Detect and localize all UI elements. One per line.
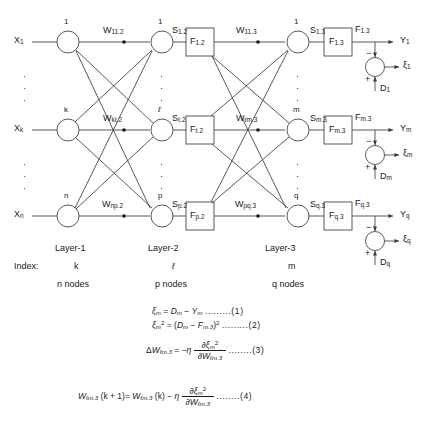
block-label-f1-3: F1.3 [329,37,344,47]
junction-sign-minus-1: − [366,49,371,58]
junction-sign-plus-m: + [365,163,370,172]
ellipsis-input-lower3: · [23,184,26,193]
equation-3-denominator: ∂Wℓm.3 [194,351,226,361]
diagram-canvas [0,0,430,433]
equation-1: ξm = Dm − Ym .........(1) [152,307,244,316]
ellipsis-input-upper3: · [23,96,26,105]
signal-label-fm-3-out: Fm.3 [355,113,371,123]
equation-4: Wℓm.3 (k + 1)= Wℓm.3 (k) − η ∂ξm2 ∂Wℓm.3… [78,386,252,408]
layer2-node-index-l: ℓ [158,106,161,114]
sum-label-s1-3: S1.3 [310,26,325,36]
neural-network-diagram: X1 Xk Xn 1 k n 1 ℓ p 1 m q W11.2 Wkℓ.2 W… [0,0,430,433]
block-label-fl-2: Fℓ.2 [190,125,203,135]
error-label-xiq: ξq [403,235,411,245]
junction-sign-minus-m: − [366,137,371,146]
layer1-node-index-k: k [64,106,68,114]
sum-label-sq-3: Sq.3 [310,200,325,210]
equation-3: ΔWℓm.3 = −η ∂ξm2 ∂Wℓm.3 ........(3) [146,340,264,362]
weight-label-wkl-2: Wkℓ.2 [103,114,122,124]
sum-label-s1-2: S1.2 [172,26,187,36]
input-label-k: Xk [14,124,23,134]
weight-label-wpq-3: Wpq.3 [235,200,256,210]
layer2-node-index-p: p [158,192,162,200]
legend-index-caption: Index: [14,262,39,271]
desired-label-dq: Dq [380,258,390,268]
block-label-f1-2: F1.2 [190,37,205,47]
legend-nodes-2: p nodes [155,280,187,289]
ellipsis-layer3-lower2: · [296,172,299,181]
layer3-node-index-m: m [293,106,300,114]
equation-4-numerator: ∂ξm2 [182,386,214,397]
sum-label-sp-2: Sp.2 [172,200,187,210]
desired-label-dm: Dm [380,172,392,182]
desired-label-d1: D1 [380,84,390,94]
equation-4-denominator: ∂Wℓm.3 [182,397,214,407]
sum-label-sm-3: Sm.3 [310,114,327,124]
output-label-ym: Ym [400,124,411,134]
legend-nodes-3: q nodes [272,280,304,289]
error-label-xim: ξm [403,149,412,159]
junction-sign-plus-1: + [365,75,370,84]
input-label-n: Xn [14,210,24,220]
block-label-fq-3: Fq.3 [329,211,344,221]
layer2-node-index-1: 1 [158,18,162,26]
equation-3-fraction: ∂ξm2 ∂Wℓm.3 [194,340,226,362]
equation-2: ξm2 = (Dm − Fm.3)2 .........(2) [152,320,261,330]
equation-3-number: ........(3) [228,345,264,355]
ellipsis-input-upper2: · [23,84,26,93]
legend-index-2: ℓ [172,262,175,271]
output-label-y1: Y1 [400,36,410,46]
sum-label-sl-2: Sℓ.2 [172,114,186,124]
equation-4-number: ........(4) [216,391,252,401]
junction-sign-minus-q: − [366,223,371,232]
legend-nodes-1: n nodes [57,280,89,289]
legend-index-1: k [74,262,79,271]
signal-label-fq-3-out: Fq.3 [355,199,370,209]
ellipsis-layer3-upper3: · [296,96,299,105]
weight-label-wlm-3: Wℓm.3 [236,114,257,124]
ellipsis-layer2-upper2: · [160,84,163,93]
ellipsis-layer3-lower3: · [296,184,299,193]
equation-2-number: .........(2) [222,320,261,330]
ellipsis-input-lower2: · [23,172,26,181]
input-label-1: X1 [14,36,24,46]
output-label-yq: Yq [400,210,410,220]
legend-layer-3: Layer-3 [265,244,296,253]
ellipsis-layer2-upper3: · [160,96,163,105]
weight-label-w11-3: W11.3 [236,26,257,36]
junction-sign-plus-q: + [365,249,370,258]
layer1-node-index-n: n [64,192,68,200]
legend-index-3: m [288,262,296,271]
equation-3-numerator: ∂ξm2 [194,340,226,351]
ellipsis-layer2-upper: · [160,72,163,81]
legend-layer-1: Layer-1 [55,244,86,253]
layer1-node-index-1: 1 [64,18,68,26]
weight-label-wnp-2: Wnp.2 [102,200,123,210]
layer3-node-index-q: q [294,192,298,200]
error-label-xi1: ξ1 [403,61,411,71]
ellipsis-layer2-lower2: · [160,172,163,181]
equation-4-fraction: ∂ξm2 ∂Wℓm.3 [182,386,214,408]
ellipsis-input-upper: · [23,72,26,81]
ellipsis-layer2-lower: · [160,160,163,169]
layer3-node-index-1: 1 [294,18,298,26]
ellipsis-layer2-lower3: · [160,184,163,193]
equation-1-number: .........(1) [205,306,244,316]
legend-layer-2: Layer-2 [148,244,179,253]
block-label-fm-3: Fm.3 [329,125,345,135]
ellipsis-layer3-upper2: · [296,84,299,93]
block-label-fp-2: Fp.2 [190,211,205,221]
ellipsis-layer3-lower: · [296,160,299,169]
weight-label-w11-2: W11.2 [103,26,124,36]
ellipsis-input-lower: · [23,160,26,169]
signal-label-f1-3-out: F1.3 [355,25,370,35]
ellipsis-layer3-upper: · [296,72,299,81]
